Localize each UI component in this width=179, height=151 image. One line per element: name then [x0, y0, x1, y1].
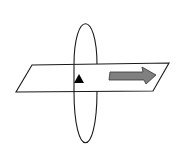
loop-lower-arc — [74, 91, 97, 143]
plane-loop-diagram — [0, 0, 179, 151]
loop-upper-arc — [74, 24, 97, 65]
